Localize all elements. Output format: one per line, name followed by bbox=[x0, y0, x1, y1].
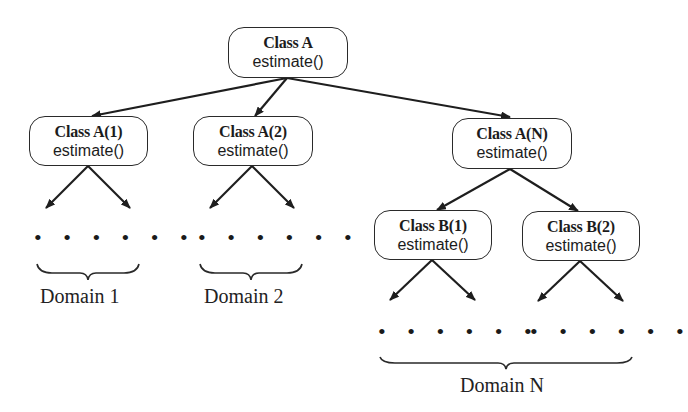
class-an-node: Class A(N) estimate() bbox=[452, 118, 572, 169]
edge-b2-left bbox=[538, 261, 580, 301]
domain-2-label: Domain 2 bbox=[204, 285, 283, 308]
edge-a2-right bbox=[252, 166, 294, 208]
node-title: Class A bbox=[229, 33, 347, 52]
class-b2-node: Class B(2) estimate() bbox=[522, 211, 640, 261]
brace-domain-1 bbox=[37, 264, 139, 280]
edge-a1-right bbox=[88, 166, 130, 208]
ellipsis-b1: • • • • • • bbox=[378, 322, 540, 342]
node-method: estimate() bbox=[229, 52, 347, 72]
class-a1-node: Class A(1) estimate() bbox=[29, 116, 148, 166]
node-method: estimate() bbox=[375, 235, 491, 255]
brace-domain-n bbox=[380, 357, 632, 369]
node-method: estimate() bbox=[523, 236, 639, 256]
ellipsis-b2: • • • • • • bbox=[530, 322, 688, 342]
class-b1-node: Class B(1) estimate() bbox=[374, 210, 492, 260]
edge-b1-right bbox=[432, 260, 475, 300]
class-a2-node: Class A(2) estimate() bbox=[193, 116, 313, 166]
node-method: estimate() bbox=[453, 143, 571, 163]
node-title: Class A(2) bbox=[194, 122, 312, 141]
node-title: Class B(1) bbox=[375, 216, 491, 235]
edge-root-a1 bbox=[92, 78, 287, 116]
ellipsis-domain-1: • • • • • • bbox=[34, 228, 196, 248]
node-method: estimate() bbox=[194, 141, 312, 161]
edge-root-an bbox=[287, 78, 510, 117]
node-title: Class A(N) bbox=[453, 124, 571, 143]
ellipsis-domain-2: • • • • • • bbox=[198, 228, 360, 248]
edge-b2-right bbox=[580, 261, 623, 301]
edge-an-b2 bbox=[510, 169, 578, 211]
domain-n-label: Domain N bbox=[460, 374, 544, 397]
node-title: Class A(1) bbox=[30, 122, 147, 141]
edge-an-b1 bbox=[437, 169, 510, 210]
edge-a1-left bbox=[46, 166, 88, 208]
brace-domain-2 bbox=[200, 264, 302, 280]
node-method: estimate() bbox=[30, 141, 147, 161]
class-a-node: Class A estimate() bbox=[228, 27, 348, 78]
domain-1-label: Domain 1 bbox=[40, 285, 119, 308]
node-title: Class B(2) bbox=[523, 217, 639, 236]
edge-b1-left bbox=[390, 260, 432, 300]
edge-a2-left bbox=[210, 166, 252, 208]
